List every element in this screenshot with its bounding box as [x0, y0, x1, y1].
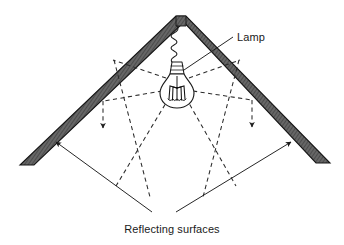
caption-leader-right: [176, 142, 291, 212]
roof-left-surface: [20, 16, 184, 165]
ray-direct-down-right: [186, 98, 236, 186]
caption-leader-left: [56, 142, 152, 212]
reflecting-surfaces-label: Reflecting surfaces: [124, 223, 220, 235]
lamp-label: Lamp: [237, 31, 265, 43]
roof-apex: [176, 16, 186, 26]
lamp-bulb: [160, 62, 194, 108]
bulb-base: [170, 62, 184, 74]
ray-direct-down-left: [116, 98, 169, 186]
ray-incident-right: [193, 91, 252, 100]
ray-incident-left: [104, 91, 162, 101]
physics-diagram-figure: Lamp Reflecting surfaces: [0, 0, 344, 245]
diagram-canvas: Lamp Reflecting surfaces: [0, 0, 344, 245]
